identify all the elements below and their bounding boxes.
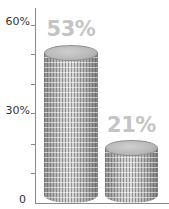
y-tick-50 (31, 54, 35, 55)
coin-stack-body (105, 148, 158, 203)
bar-2-value-label: 21% (105, 113, 158, 137)
x-axis (35, 203, 169, 204)
coin-stack-top (105, 140, 158, 156)
y-tick-20 (31, 144, 35, 145)
y-tick-60 (31, 25, 35, 26)
bar-1-value-label: 53% (44, 17, 98, 41)
coin-stack-top (44, 45, 98, 61)
y-tick-label-0: 0 (0, 194, 26, 206)
coin-stack-body (44, 53, 98, 203)
y-tick-10 (31, 173, 35, 174)
y-tick-30 (31, 113, 35, 114)
y-tick-label-60: 60% (0, 16, 30, 28)
y-tick-label-30: 30% (0, 105, 30, 117)
y-tick-40 (31, 84, 35, 85)
y-axis (35, 8, 36, 204)
coin-stack-bar-2 (105, 140, 158, 203)
coin-stack-bar-1 (44, 45, 98, 203)
